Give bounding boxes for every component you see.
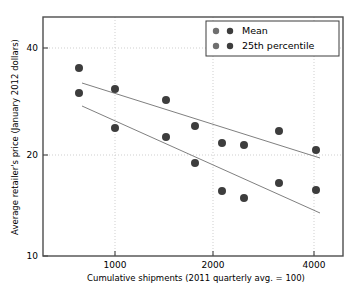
legend-label-25th: 25th percentile: [242, 40, 315, 51]
data-point: [218, 139, 226, 147]
data-point: [275, 179, 283, 187]
data-point: [312, 186, 320, 194]
data-point: [162, 96, 170, 104]
legend-marker-mean: [227, 28, 233, 34]
data-point: [191, 122, 199, 130]
data-point: [218, 187, 226, 195]
data-point: [162, 133, 170, 141]
legend-marker-25th-light: [213, 43, 219, 49]
data-point: [75, 89, 83, 97]
x-tick-label: 4000: [303, 260, 326, 270]
data-point: [275, 127, 283, 135]
data-point: [111, 124, 119, 132]
data-point: [312, 146, 320, 154]
chart-figure: 40 20 10 1000 2000 4000 Cumulative shipm…: [0, 0, 359, 290]
scatter-plot: 40 20 10 1000 2000 4000 Cumulative shipm…: [0, 0, 359, 290]
data-point: [75, 64, 83, 72]
legend-label-mean: Mean: [242, 25, 268, 36]
y-tick-label: 20: [27, 150, 39, 160]
data-point: [191, 159, 199, 167]
x-tick-label: 2000: [202, 260, 225, 270]
y-tick-label: 40: [27, 43, 39, 53]
legend: Mean 25th percentile: [206, 21, 339, 56]
x-tick-label: 1000: [104, 260, 127, 270]
x-axis-title: Cumulative shipments (2011 quarterly avg…: [87, 273, 305, 283]
y-tick-label: 10: [27, 251, 39, 261]
data-point: [240, 141, 248, 149]
legend-marker-mean-light: [213, 28, 219, 34]
y-axis-title: Average retailer's price (January 2012 d…: [10, 39, 20, 235]
data-point: [240, 194, 248, 202]
legend-marker-25th: [227, 43, 233, 49]
data-point: [111, 85, 119, 93]
